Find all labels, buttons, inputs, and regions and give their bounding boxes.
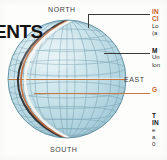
- annotation-time-zones: T IN e a 0: [152, 112, 167, 148]
- annotation-body-line1: Un: [152, 54, 167, 61]
- diagram-page: ENTS: [0, 0, 167, 160]
- annotation-heading-line2: CI: [152, 15, 167, 22]
- label-east: EAST: [124, 76, 145, 83]
- label-north: NORTH: [48, 6, 76, 13]
- annotation-inclination: IN CI Lo (a: [152, 8, 167, 37]
- annotation-heading-line1: M: [152, 47, 167, 54]
- leader-line-1: [88, 14, 150, 15]
- annotation-body-line1: e: [152, 127, 167, 134]
- annotation-body-line2: lon: [152, 62, 167, 69]
- annotation-heading-line1: IN: [152, 8, 167, 15]
- annotation-heading-line1: T: [152, 112, 167, 119]
- annotation-body-line1: Lo: [152, 23, 167, 30]
- annotation-heading-line2: IN: [152, 119, 167, 126]
- leader-line-1-vertical: [88, 14, 89, 28]
- annotation-heading-line1: G: [152, 86, 167, 93]
- leader-line-equator: [34, 93, 150, 94]
- annotation-meridian: M Un lon: [152, 47, 167, 69]
- label-south: SOUTH: [50, 146, 78, 153]
- annotation-body-line2: a: [152, 134, 167, 141]
- annotation-great-circle: G: [152, 86, 167, 93]
- annotation-body-line2: (a: [152, 30, 167, 37]
- annotation-column: IN CI Lo (a M Un lon G T IN e a 0: [152, 0, 167, 160]
- annotation-body-line3: 0: [152, 141, 167, 148]
- page-title-clipped: ENTS: [0, 21, 43, 43]
- leader-line-2: [104, 53, 150, 54]
